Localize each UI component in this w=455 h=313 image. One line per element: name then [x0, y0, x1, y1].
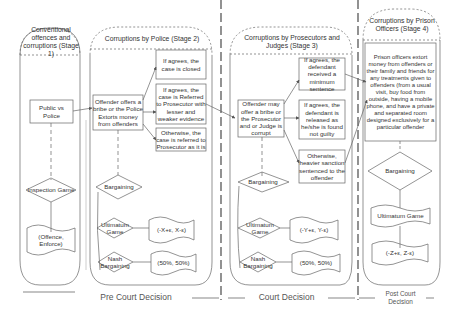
- stage2-nash-bargaining: Nash Bargaining: [99, 255, 131, 269]
- stage2-nash-payoff: (50%, 50%): [151, 255, 196, 271]
- inspection-game-decision: Inspection Game: [26, 184, 76, 196]
- stage4-bargaining-decision: Bargaining: [375, 165, 425, 177]
- stage3-outcome-heavier-sanction: Otherwise, heavier sanction sentenced to…: [299, 150, 345, 183]
- stage3-action-box: Offender may offer a bribe or the Prosec…: [238, 100, 284, 137]
- stage3-title: Corruptions by Prosecutors and Judges (S…: [238, 32, 346, 52]
- stage3-ultimatum-payoff: (-Y+ε, Y-ε): [290, 222, 338, 238]
- stage3-ultimatum-game: Ultimatum Game: [242, 221, 278, 235]
- stage2-bargaining-decision: Bargaining: [96, 181, 142, 193]
- phase-court: Court Decision: [245, 292, 328, 302]
- phase-pre-court: Pre Court Decision: [80, 292, 192, 302]
- stage2-outcome-referred-as-is: Otherwise, the case is referred to Prose…: [156, 128, 206, 151]
- public-vs-police-box: Public vs Police: [30, 100, 73, 123]
- stage2-ultimatum-payoff: (-X+ε, X-ε): [149, 222, 194, 238]
- stage2-ultimatum-game: Ultimatum Game: [99, 221, 131, 235]
- stage3-nash-bargaining: Nash Bargaining: [242, 255, 274, 269]
- stage1-title: Conventional offences and corruptions (S…: [21, 30, 81, 54]
- stage3-outcome-not-guilty: If agrees, the defendant is released as …: [299, 100, 345, 139]
- stage3-bargaining-decision: Bargaining: [240, 176, 286, 188]
- phase-post-court: Post Court Decision: [375, 290, 426, 305]
- stage4-ultimatum-payoff: (-Z+ε, Z-ε): [372, 245, 428, 261]
- stage2-title: Corruptions by Police (Stage 2): [100, 30, 204, 48]
- stage4-title: Corruptions by Prison Officers (Stage 4): [367, 12, 437, 38]
- stage2-action-box: Offender offers a bribe or the Police Ex…: [93, 95, 143, 130]
- stage4-action-box: Prison officers extort money from offend…: [366, 44, 435, 140]
- stage3-outcome-minimum-sentence: If agrees, the defendant received a mini…: [299, 58, 345, 90]
- stage2-outcome-referred-weaker: If agrees, the case is Referred to Prose…: [156, 84, 206, 124]
- stage3-nash-payoff: (50%, 50%): [292, 255, 340, 271]
- stage4-ultimatum-game: Ultimatum Game: [371, 208, 430, 224]
- corruption-stages-diagram: Conventional offences and corruptions (S…: [0, 0, 455, 313]
- stage2-outcome-closed: If agrees, the case is closed: [156, 50, 206, 79]
- stage1-payoff: (Offence, Enforce): [27, 230, 75, 250]
